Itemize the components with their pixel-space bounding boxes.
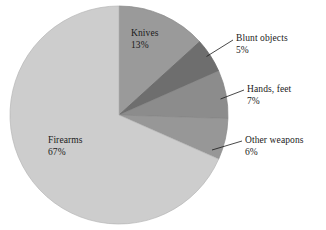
slice-label-hands-feet-value: 7% (247, 96, 291, 108)
slice-label-firearms-name: Firearms (48, 135, 83, 145)
pie-slices (10, 6, 228, 224)
leader-line-blunt-objects (207, 40, 234, 57)
slice-label-hands-feet-name: Hands, feet (247, 84, 291, 94)
slice-label-blunt-objects-value: 5% (236, 45, 288, 57)
slice-label-knives: Knives 13% (131, 28, 159, 51)
pie-chart: Knives 13% Blunt objects 5% Hands, feet … (0, 0, 326, 230)
slice-label-firearms-value: 67% (48, 147, 83, 159)
slice-label-knives-value: 13% (131, 40, 159, 52)
slice-label-hands-feet: Hands, feet 7% (247, 84, 291, 107)
slice-label-other-weapons-name: Other weapons (245, 135, 304, 145)
slice-label-other-weapons: Other weapons 6% (245, 135, 304, 158)
slice-label-blunt-objects: Blunt objects 5% (236, 33, 288, 56)
slice-label-blunt-objects-name: Blunt objects (236, 33, 288, 43)
slice-label-other-weapons-value: 6% (245, 147, 304, 159)
slice-label-knives-name: Knives (131, 28, 159, 38)
slice-label-firearms: Firearms 67% (48, 135, 83, 158)
